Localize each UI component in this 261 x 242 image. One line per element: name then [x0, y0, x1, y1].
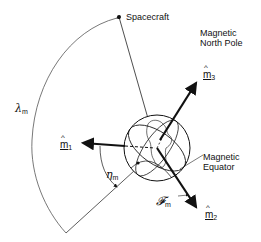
eta-m-label: ηm: [106, 170, 118, 183]
spacecraft-dot: [117, 15, 121, 19]
m1-label: ^m1: [60, 140, 72, 153]
m1-arrow: [83, 143, 125, 146]
north-pole-line2: North Pole: [200, 38, 243, 48]
north-pole-label: Magnetic North Pole: [200, 28, 243, 48]
north-pole-line1: Magnetic: [200, 28, 243, 38]
m3-label: ^m3: [203, 70, 215, 83]
lambda-arc: [32, 18, 117, 233]
fm-leader: [178, 195, 188, 196]
equator-line2: Equator: [203, 162, 240, 172]
equator-line1: Magnetic: [203, 152, 240, 162]
lambda-m-label: λm: [15, 104, 28, 117]
script-f-m-label: 𝓕m: [156, 196, 171, 210]
spacecraft-label: Spacecraft: [126, 12, 169, 22]
m2-label: ^m2: [205, 210, 217, 223]
equator-label: Magnetic Equator: [203, 152, 240, 172]
